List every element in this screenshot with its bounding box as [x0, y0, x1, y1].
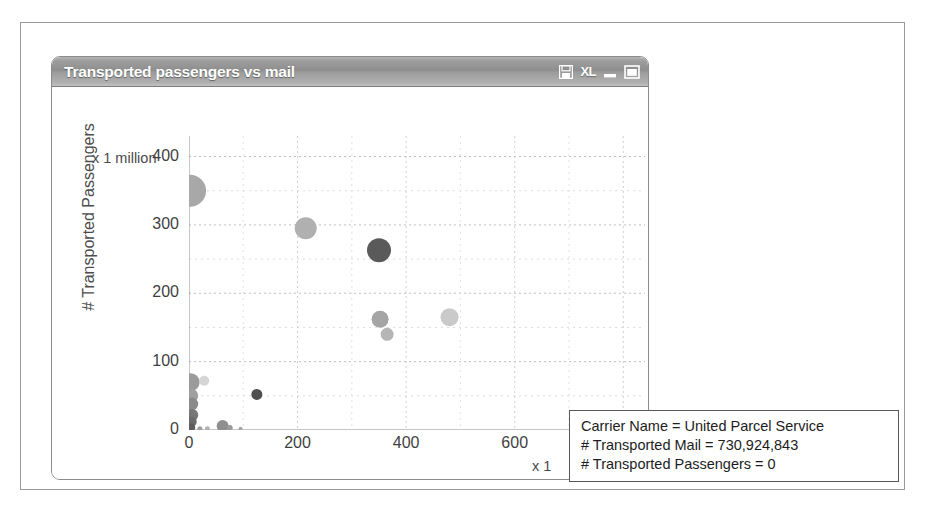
data-point[interactable]	[197, 426, 202, 430]
x-axis-unit-label: x 1	[532, 458, 551, 474]
tooltip-line-transported-mail: # Transported Mail = 730,924,843	[581, 436, 889, 455]
window-title: Transported passengers vs mail	[64, 63, 295, 81]
y-tick-label: 200	[119, 283, 179, 301]
data-point[interactable]	[251, 389, 262, 400]
data-point[interactable]	[189, 175, 206, 207]
outer-page-frame: Transported passengers vs mail XL	[20, 22, 905, 490]
tooltip-line-carrier-name: Carrier Name = United Parcel Service	[581, 417, 889, 436]
window-title-bar: Transported passengers vs mail XL	[52, 57, 648, 87]
scatter-plot-area[interactable]	[189, 136, 645, 430]
excel-export-button[interactable]: XL	[580, 65, 596, 78]
data-point[interactable]	[441, 308, 459, 326]
y-tick-label: 100	[119, 352, 179, 370]
y-tick-label: 400	[119, 147, 179, 165]
minimize-button[interactable]	[603, 65, 617, 79]
data-points-group[interactable]	[189, 175, 591, 430]
chart-window: Transported passengers vs mail XL	[51, 56, 649, 480]
maximize-button[interactable]	[624, 65, 640, 79]
x-tick-label: 400	[376, 434, 436, 452]
x-tick-label: 200	[268, 434, 328, 452]
x-tick-label: 600	[485, 434, 545, 452]
save-icon[interactable]	[559, 65, 573, 79]
plot-svg	[189, 136, 645, 430]
y-axis-title: # Transported Passengers	[80, 92, 98, 342]
data-point[interactable]	[189, 373, 200, 391]
gridlines	[189, 136, 645, 430]
data-point[interactable]	[239, 427, 243, 430]
data-point[interactable]	[295, 217, 317, 239]
chart-plot-body: # Transported Passengers x 1 million # T…	[52, 88, 648, 479]
tooltip-line-transported-passengers: # Transported Passengers = 0	[581, 455, 889, 474]
y-tick-label: 300	[119, 215, 179, 233]
x-tick-label: 0	[159, 434, 219, 452]
data-point[interactable]	[372, 311, 389, 328]
data-point[interactable]	[381, 328, 394, 341]
data-point[interactable]	[199, 376, 209, 386]
data-point[interactable]	[205, 426, 210, 430]
data-point-tooltip: Carrier Name = United Parcel Service # T…	[569, 410, 899, 482]
axis-lines	[189, 136, 645, 430]
data-point[interactable]	[367, 238, 391, 262]
